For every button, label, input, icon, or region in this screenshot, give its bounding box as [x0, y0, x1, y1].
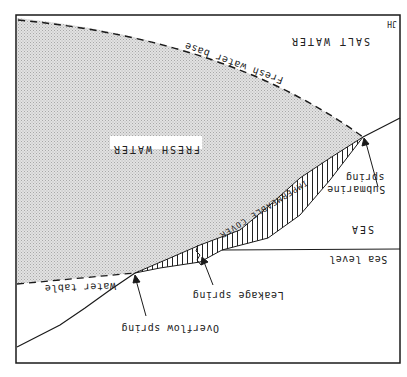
water-table-label: Water table [44, 281, 116, 294]
spring-types-diagram: JH SALT WATER Fresh water base FRESH WAT… [0, 0, 407, 377]
fresh-water-label-box: FRESH WATER [110, 136, 202, 155]
submarine-spring-label-2: spring [345, 172, 384, 183]
sea-level-label: Sea level [329, 254, 388, 265]
leakage-spring-label: Leakage spring [192, 290, 283, 301]
sea-level-line [222, 249, 400, 250]
leakage-spring-arrow [204, 262, 213, 285]
overflow-spring-arrow [136, 280, 146, 316]
salt-water-label: SALT WATER [290, 36, 370, 47]
corner-mark: JH [387, 19, 397, 28]
sea-label: SEA [350, 224, 374, 235]
submarine-spring-label-1: Submarine [327, 184, 386, 195]
fresh-water-label: FRESH WATER [112, 144, 200, 155]
overflow-spring-label: Overflow spring [121, 323, 219, 334]
